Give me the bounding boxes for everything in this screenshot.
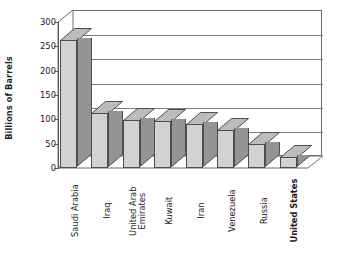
bar-front-face bbox=[154, 121, 171, 168]
bar-front-face bbox=[60, 40, 77, 168]
bar-side-face bbox=[297, 155, 313, 168]
bar-kuwait[interactable] bbox=[154, 109, 171, 168]
bar-iran[interactable] bbox=[186, 112, 203, 168]
bar-front-face bbox=[280, 157, 297, 168]
bar-saudi-arabia[interactable] bbox=[60, 28, 77, 168]
bar-front-face bbox=[248, 144, 265, 168]
category-label-text: United States bbox=[291, 179, 300, 243]
bar-united-arab-emirates[interactable] bbox=[123, 108, 140, 168]
bar-front-face bbox=[186, 124, 203, 168]
category-label-united-states: United States bbox=[259, 170, 331, 252]
bar-front-face bbox=[91, 113, 108, 168]
bar-united-states[interactable] bbox=[280, 145, 297, 168]
bar-front-face bbox=[123, 120, 140, 168]
oil-reserves-bar-chart: Billions of Barrels 300250200150100500 bbox=[0, 0, 342, 255]
bar-iraq[interactable] bbox=[91, 101, 108, 168]
bar-venezuela[interactable] bbox=[217, 118, 234, 168]
x-axis-category-labels: Saudi ArabiaIraqUnited Arab EmiratesKuwa… bbox=[0, 170, 342, 255]
bar-front-face bbox=[217, 130, 234, 168]
bar-russia[interactable] bbox=[248, 132, 265, 168]
